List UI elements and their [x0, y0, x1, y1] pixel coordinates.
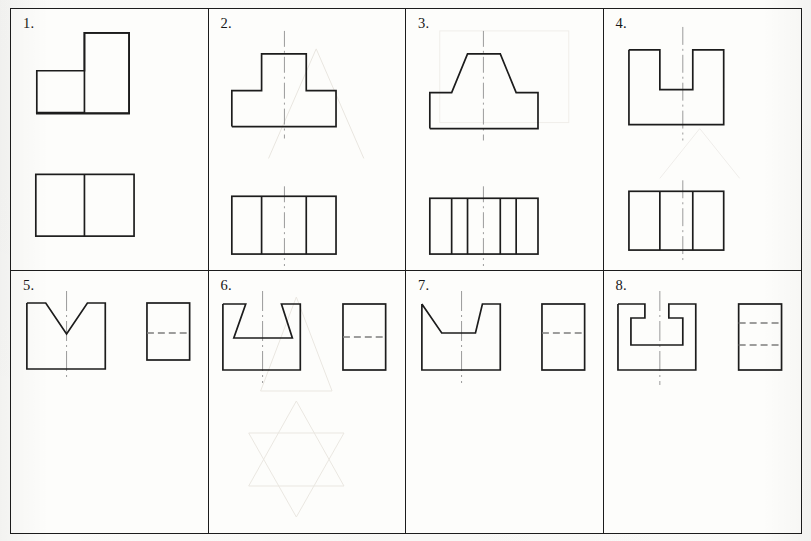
front-view-dovetail-notch-block: [222, 304, 299, 370]
front-view-u-notch-block: [628, 50, 723, 125]
side-view-rectangle-5: [147, 303, 190, 360]
ghost-construction-lines-4: [659, 129, 739, 179]
drawing-cell-6: [209, 271, 406, 533]
drawing-cell-8: [604, 271, 802, 533]
ghost-construction-lines-2: [268, 49, 363, 159]
front-view-vee-trough-block: [422, 304, 500, 370]
exercise-cell-5[interactable]: 5.: [11, 271, 209, 533]
top-view-rectangle-4: [628, 191, 723, 250]
front-view-l-step-block: [37, 33, 129, 114]
drawing-cell-3: [406, 9, 603, 270]
drawing-cell-1: [11, 9, 208, 270]
exercise-cell-8[interactable]: 8.: [604, 271, 802, 533]
exercise-cell-6[interactable]: 6.: [209, 271, 407, 533]
ghost-triangle-inverted-6: [248, 433, 343, 517]
worksheet-sheet: 1. 2.: [0, 0, 811, 541]
ghost-triangle-lower-6: [248, 401, 343, 486]
exercise-cell-4[interactable]: 4.: [604, 9, 802, 271]
exercise-cell-2[interactable]: 2.: [209, 9, 407, 271]
exercise-cell-7[interactable]: 7.: [406, 271, 604, 533]
ghost-frame-3: [440, 31, 569, 123]
exercise-cell-3[interactable]: 3.: [406, 9, 604, 271]
side-view-rectangle-8: [738, 304, 781, 370]
exercise-grid: 1. 2.: [10, 8, 802, 534]
drawing-cell-5: [11, 271, 208, 533]
drawing-cell-4: [604, 9, 802, 270]
front-view-tee-slot-block: [617, 304, 695, 370]
side-view-rectangle-7: [542, 304, 585, 370]
ghost-triangle-upper-6: [260, 297, 331, 391]
drawing-cell-7: [406, 271, 603, 533]
front-view-outline-1: [37, 33, 129, 113]
exercise-cell-1[interactable]: 1.: [11, 9, 209, 271]
drawing-cell-2: [209, 9, 406, 270]
